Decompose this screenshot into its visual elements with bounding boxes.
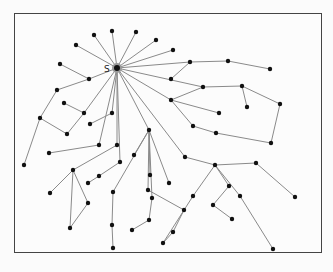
edge <box>148 190 184 210</box>
edge <box>70 170 73 228</box>
edge <box>190 61 228 62</box>
edge <box>50 170 73 193</box>
graph-node <box>227 184 231 188</box>
graph-node <box>254 161 258 165</box>
graph-node <box>47 151 51 155</box>
edge <box>242 86 280 104</box>
edge <box>213 205 232 219</box>
graph-node <box>74 43 78 47</box>
edge <box>60 64 89 79</box>
edge <box>40 90 57 118</box>
graph-node <box>238 194 242 198</box>
edge <box>193 165 215 196</box>
edge <box>242 86 247 107</box>
graph-node <box>132 153 136 157</box>
graph-node <box>147 128 151 132</box>
edge <box>215 165 240 196</box>
graph-node <box>245 105 249 109</box>
edge <box>112 225 113 248</box>
graph-node <box>62 101 66 105</box>
edge <box>271 104 280 143</box>
graph-node <box>130 228 134 232</box>
graph-node <box>38 116 42 120</box>
edge <box>112 192 113 225</box>
graph-node <box>82 111 86 115</box>
graph-node <box>22 163 26 167</box>
graph-node <box>226 59 230 63</box>
edge <box>73 145 117 170</box>
edge <box>67 113 84 134</box>
edge <box>57 79 89 90</box>
graph-node <box>87 77 91 81</box>
edge <box>149 198 152 220</box>
graph-node <box>68 226 72 230</box>
graph-node <box>161 241 165 245</box>
graph-node <box>115 143 119 147</box>
graph-node <box>191 194 195 198</box>
graph-node <box>88 122 92 126</box>
edge <box>24 118 40 165</box>
graph-node <box>86 201 90 205</box>
graph-node <box>110 29 114 33</box>
graph-node <box>118 160 122 164</box>
graph-node <box>86 181 90 185</box>
graph-node <box>183 155 187 159</box>
graph-node <box>169 98 173 102</box>
edge <box>185 157 215 165</box>
graph-node <box>92 33 96 37</box>
graph-node <box>147 218 151 222</box>
graph-node <box>169 77 173 81</box>
graph-node <box>268 67 272 71</box>
edge <box>171 87 203 100</box>
source-node <box>113 64 121 72</box>
graph-node <box>146 188 150 192</box>
graph-node <box>48 191 52 195</box>
graph-node <box>71 168 75 172</box>
edge <box>148 130 149 190</box>
graph-node <box>97 174 101 178</box>
edge <box>117 40 156 68</box>
edge <box>256 163 295 197</box>
graph-node <box>230 217 234 221</box>
edge <box>49 145 99 153</box>
edge <box>112 68 117 113</box>
edge <box>171 62 190 79</box>
graph-node <box>171 230 175 234</box>
graph-node <box>111 190 115 194</box>
graph-node <box>271 247 275 251</box>
edge <box>203 86 242 87</box>
edge <box>216 133 271 143</box>
edge <box>228 61 270 69</box>
edge <box>171 100 193 126</box>
graph-node <box>182 208 186 212</box>
graph-node <box>211 203 215 207</box>
graph-node <box>188 60 192 64</box>
graph-node <box>65 132 69 136</box>
edge <box>213 186 229 205</box>
graph-node <box>55 88 59 92</box>
graph-node <box>171 48 175 52</box>
edge <box>70 203 88 228</box>
graph-node <box>278 102 282 106</box>
graph-node <box>110 111 114 115</box>
graph-node <box>58 62 62 66</box>
graph-node <box>167 181 171 185</box>
edge <box>193 126 216 133</box>
tree-graph: S <box>0 0 333 272</box>
edge <box>76 45 117 68</box>
graph-node <box>240 84 244 88</box>
graph-node <box>191 124 195 128</box>
graph-node <box>293 195 297 199</box>
edges-layer <box>24 31 295 249</box>
source-label: S <box>104 64 110 74</box>
graph-node <box>217 111 221 115</box>
edge <box>163 196 193 243</box>
edge <box>90 113 112 124</box>
graph-node <box>154 38 158 42</box>
edge <box>240 196 273 249</box>
graph-node <box>134 30 138 34</box>
graph-node <box>97 143 101 147</box>
graph-node <box>150 196 154 200</box>
edge <box>171 100 219 113</box>
edge <box>215 163 256 165</box>
